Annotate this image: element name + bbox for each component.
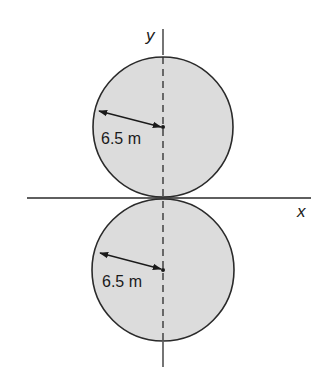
lower-center-dot <box>161 268 165 272</box>
lower-radius-label: 6.5 m <box>102 273 142 290</box>
upper-center-dot <box>161 125 165 129</box>
y-axis-label: y <box>145 26 156 45</box>
upper-radius-label: 6.5 m <box>101 130 141 147</box>
two-circles-diagram: y x 6.5 m 6.5 m <box>0 0 328 386</box>
x-axis-label: x <box>296 202 306 221</box>
